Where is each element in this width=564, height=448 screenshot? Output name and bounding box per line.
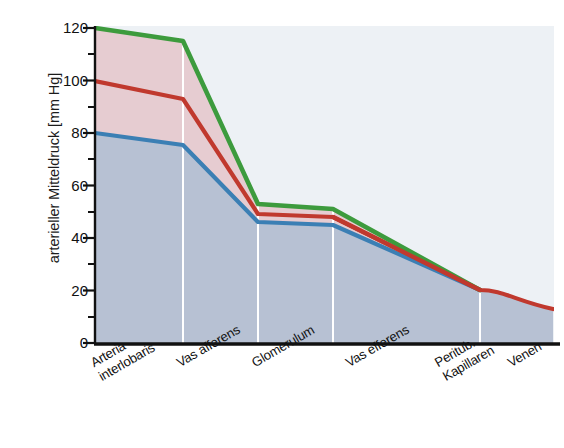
y-axis-tick-labels: 120 100 80 60 40 20 0: [44, 0, 88, 448]
y-tick-label: 40: [48, 230, 88, 245]
y-tick-label: 20: [48, 283, 88, 298]
chart-figure: arterieller Mitteldruck [mm Hg] 120 100 …: [0, 0, 564, 448]
y-tick-label: 100: [48, 73, 88, 88]
y-tick-label: 60: [48, 178, 88, 193]
y-tick-label: 80: [48, 125, 88, 140]
y-tick-label: 0: [48, 335, 88, 350]
y-tick-label: 120: [48, 20, 88, 35]
